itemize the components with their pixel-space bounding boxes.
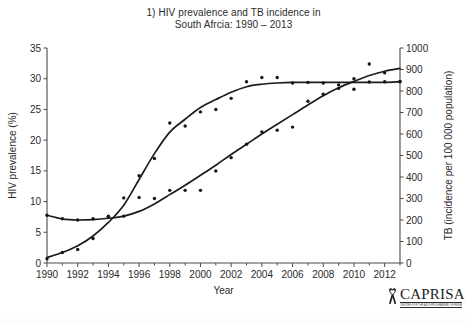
tb-data-point <box>122 214 125 217</box>
right-axis-tick-label: 500 <box>406 150 423 161</box>
right-axis-tick-label: 400 <box>406 172 423 183</box>
hiv-data-point <box>183 124 186 127</box>
x-axis-tick-label: 2004 <box>251 269 274 280</box>
y-axis-title: HIV prevalence (%) <box>7 112 18 199</box>
scan-edge-artifact <box>0 313 467 325</box>
right-axis-tick-label: 600 <box>406 129 423 140</box>
right-axis-tick-label: 200 <box>406 215 423 226</box>
tb-data-point <box>322 93 325 96</box>
right-axis-tick-label: 900 <box>406 64 423 75</box>
hiv-data-point <box>153 157 156 160</box>
hiv-data-point <box>260 76 263 79</box>
tb-data-point <box>153 197 156 200</box>
tb-data-point <box>260 130 263 133</box>
chart-plot-area: 0510152025303501002003004005006007008009… <box>0 0 467 325</box>
hiv-data-point <box>199 110 202 113</box>
hiv-data-point <box>229 97 232 100</box>
hiv-data-point <box>45 257 48 260</box>
x-axis-tick-label: 2006 <box>281 269 304 280</box>
hiv-data-point <box>291 81 294 84</box>
axis-labels-group: 0510152025303501002003004005006007008009… <box>7 43 454 296</box>
left-axis-tick-label: 35 <box>30 43 42 54</box>
x-axis-tick-label: 2000 <box>189 269 212 280</box>
left-axis-tick-label: 15 <box>30 165 42 176</box>
hiv-data-point <box>245 80 248 83</box>
hiv-data-point <box>352 77 355 80</box>
right-axis-tick-label: 700 <box>406 107 423 118</box>
x-axis-tick-label: 1994 <box>97 269 120 280</box>
tb-data-point <box>199 189 202 192</box>
x-axis-tick-label: 2002 <box>220 269 243 280</box>
left-axis-tick-label: 20 <box>30 135 42 146</box>
hiv-data-point <box>137 174 140 177</box>
hiv-data-point <box>76 248 79 251</box>
hiv-data-point <box>306 81 309 84</box>
hiv-data-point <box>322 81 325 84</box>
left-axis-tick-label: 25 <box>30 104 42 115</box>
tb-data-point <box>91 217 94 220</box>
right-axis-tick-label: 0 <box>406 258 412 269</box>
hiv-data-point <box>214 108 217 111</box>
tb-data-point <box>229 156 232 159</box>
hiv-trend-curve <box>47 82 400 258</box>
hiv-data-point <box>91 237 94 240</box>
x-axis-tick-label: 1998 <box>159 269 182 280</box>
hiv-data-point <box>337 83 340 86</box>
right-axis-tick-label: 100 <box>406 236 423 247</box>
x-axis-title: Year <box>213 285 234 296</box>
tb-data-point <box>306 100 309 103</box>
tb-data-point <box>337 87 340 90</box>
hiv-data-point <box>383 80 386 83</box>
tb-data-point <box>45 214 48 217</box>
figure-container: 1) HIV prevalence and TB incidence in So… <box>0 0 467 325</box>
left-axis-tick-label: 10 <box>30 196 42 207</box>
tb-data-point <box>214 169 217 172</box>
left-axis-tick-label: 30 <box>30 73 42 84</box>
tb-data-point <box>76 218 79 221</box>
hiv-data-point <box>122 196 125 199</box>
x-axis-tick-label: 2008 <box>312 269 335 280</box>
hiv-data-point <box>61 251 64 254</box>
tb-data-point <box>107 215 110 218</box>
tb-data-point <box>368 80 371 83</box>
left-axis-tick-label: 5 <box>35 227 41 238</box>
tb-trend-curve <box>47 68 400 220</box>
x-axis-tick-label: 2012 <box>374 269 397 280</box>
hiv-data-point <box>168 121 171 124</box>
x-axis-tick-label: 2010 <box>343 269 366 280</box>
x-axis-tick-label: 1990 <box>36 269 59 280</box>
caprisa-logo: CAPRISA CENTRE FOR THE AIDS PROGRAMME OF… <box>386 286 464 314</box>
caprisa-wordmark: CAPRISA <box>400 286 465 302</box>
tb-data-point <box>168 189 171 192</box>
tb-data-point <box>398 80 401 83</box>
aids-ribbon-icon <box>386 287 399 305</box>
hiv-data-point <box>276 76 279 79</box>
axes-group <box>44 48 404 267</box>
hiv-data-point <box>368 62 371 65</box>
tb-data-point <box>291 125 294 128</box>
tb-data-point <box>276 128 279 131</box>
y2-axis-title: TB (incidence per 100 000 population) <box>443 71 454 241</box>
right-axis-tick-label: 1000 <box>406 43 429 54</box>
x-axis-tick-label: 1992 <box>67 269 90 280</box>
tb-data-point <box>245 143 248 146</box>
tb-data-point <box>183 189 186 192</box>
tb-data-point <box>383 71 386 74</box>
left-axis-tick-label: 0 <box>35 258 41 269</box>
caprisa-tagline: CENTRE FOR THE AIDS PROGRAMME OF RESEARC… <box>400 302 462 308</box>
tb-data-point <box>137 196 140 199</box>
right-axis-tick-label: 800 <box>406 86 423 97</box>
tb-data-point <box>61 217 64 220</box>
x-axis-tick-label: 1996 <box>128 269 151 280</box>
right-axis-tick-label: 300 <box>406 193 423 204</box>
series-group <box>45 62 401 260</box>
tb-data-point <box>352 88 355 91</box>
